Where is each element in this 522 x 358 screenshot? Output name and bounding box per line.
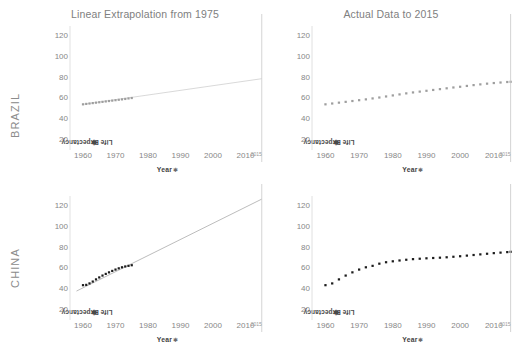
panel-brazil-actual: Life Expectancy✱ 20406080100120 2015 196…: [272, 26, 514, 178]
data-point-marker: [114, 99, 116, 101]
data-markers-group: [324, 81, 511, 106]
data-point-marker: [82, 284, 84, 286]
y-tick-label: 60: [59, 94, 68, 102]
x-tick-label: 2000: [204, 152, 222, 160]
data-point-marker: [486, 253, 488, 255]
data-point-marker: [351, 100, 353, 102]
data-point-marker: [95, 278, 97, 280]
data-point-marker: [124, 265, 126, 267]
plot-area-china-actual: 2015: [312, 196, 514, 320]
data-point-marker: [118, 99, 120, 101]
y-tick-label: 20: [301, 306, 310, 314]
data-point-marker: [124, 98, 126, 100]
data-point-marker: [131, 97, 133, 99]
data-point-marker: [472, 254, 474, 256]
data-point-marker: [338, 102, 340, 104]
data-point-marker: [82, 103, 84, 105]
x-axis-sort-icon: ✱: [417, 337, 423, 343]
data-point-marker: [412, 258, 414, 260]
data-point-marker: [371, 97, 373, 99]
panel-china-actual: Life Expectancy✱ 20406080100120 2015 196…: [272, 196, 514, 348]
y-tick-label: 80: [59, 244, 68, 252]
data-point-marker: [127, 265, 129, 267]
y-tick-label: 60: [301, 264, 310, 272]
data-point-marker: [466, 255, 468, 257]
data-point-marker: [358, 268, 360, 270]
data-point-marker: [405, 259, 407, 261]
data-markers-group: [324, 251, 511, 287]
data-point-marker: [479, 253, 481, 255]
data-point-marker: [371, 265, 373, 267]
data-point-marker: [121, 266, 123, 268]
x-axis-sort-icon: ✱: [172, 167, 178, 173]
x-tick-label: 2000: [204, 322, 222, 330]
y-tick-label: 120: [55, 202, 68, 210]
data-point-marker: [95, 102, 97, 104]
y-tick-label: 100: [297, 53, 310, 61]
data-point-marker: [324, 103, 326, 105]
trend-line-group: [77, 199, 262, 291]
data-point-marker: [405, 92, 407, 94]
y-tick-label: 120: [297, 202, 310, 210]
data-point-marker: [439, 257, 441, 259]
data-point-marker: [88, 102, 90, 104]
data-point-marker: [108, 100, 110, 102]
y-axis-ticks: 20406080100120: [44, 26, 68, 150]
data-point-marker: [101, 274, 103, 276]
x-tick-label: 2010: [485, 322, 503, 330]
panel-brazil-extrapolation: Life Expectancy✱ 20406080100120 2015 196…: [30, 26, 265, 178]
data-point-marker: [331, 282, 333, 284]
x-axis-title-text: Year: [157, 336, 172, 343]
data-point-marker: [506, 251, 508, 253]
data-point-marker: [358, 99, 360, 101]
y-tick-label: 120: [55, 32, 68, 40]
x-axis-sort-icon: ✱: [172, 337, 178, 343]
y-tick-label: 40: [59, 285, 68, 293]
y-tick-label: 80: [59, 74, 68, 82]
data-point-marker: [85, 284, 87, 286]
data-point-marker: [105, 100, 107, 102]
data-point-marker: [419, 91, 421, 93]
y-tick-label: 100: [297, 223, 310, 231]
data-point-marker: [392, 260, 394, 262]
data-point-marker: [392, 94, 394, 96]
row-caption-brazil-label: BRAZIL: [9, 98, 21, 138]
data-point-marker: [331, 102, 333, 104]
data-point-marker: [111, 100, 113, 102]
x-tick-label: 1960: [74, 152, 92, 160]
x-axis-ticks: 196019701980199020002010: [70, 152, 265, 164]
x-axis-title: Year✱: [312, 336, 514, 343]
y-axis-ticks: 20406080100120: [286, 196, 310, 320]
data-point-marker: [324, 284, 326, 286]
y-tick-label: 40: [59, 115, 68, 123]
viz-canvas: Linear Extrapolation from 1975 Actual Da…: [0, 0, 522, 358]
x-axis-ticks: 196019701980199020002010: [312, 322, 514, 334]
data-point-marker: [127, 97, 129, 99]
x-tick-label: 1990: [172, 322, 190, 330]
plot-svg: [70, 196, 265, 320]
data-point-marker: [114, 268, 116, 270]
data-point-marker: [479, 83, 481, 85]
data-point-marker: [121, 98, 123, 100]
x-tick-label: 1970: [350, 322, 368, 330]
y-tick-label: 100: [55, 223, 68, 231]
data-point-marker: [493, 252, 495, 254]
plot-svg: [312, 196, 514, 320]
y-tick-label: 120: [297, 32, 310, 40]
y-tick-label: 20: [59, 306, 68, 314]
x-tick-label: 2010: [485, 152, 503, 160]
x-tick-label: 1980: [139, 152, 157, 160]
x-axis-title: Year✱: [70, 336, 265, 343]
x-tick-label: 1980: [384, 152, 402, 160]
data-point-marker: [111, 270, 113, 272]
y-tick-label: 100: [55, 53, 68, 61]
data-point-marker: [439, 88, 441, 90]
plot-area-china-extrapolation: 2015: [70, 196, 265, 320]
data-point-marker: [88, 282, 90, 284]
y-tick-label: 20: [301, 136, 310, 144]
x-tick-label: 1980: [139, 322, 157, 330]
data-point-marker: [351, 271, 353, 273]
x-tick-label: 1970: [350, 152, 368, 160]
data-point-marker: [446, 87, 448, 89]
data-point-marker: [499, 252, 501, 254]
